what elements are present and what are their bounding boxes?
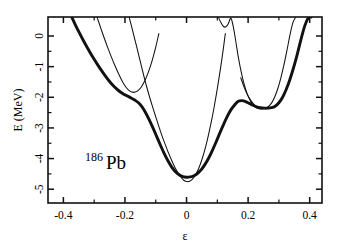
x-tick-label: 0 — [184, 209, 190, 221]
chart-background — [0, 0, 345, 247]
y-axis-title: E (MeV) — [11, 89, 25, 132]
energy-deformation-chart: -0.4-0.200.20.4 0-1-2-3-4-5 ε E (MeV) 18… — [0, 0, 345, 247]
y-tick-label: -4 — [33, 154, 45, 164]
y-tick-label: -2 — [33, 92, 45, 102]
y-tick-label: -1 — [33, 62, 45, 72]
x-tick-label: -0.4 — [54, 209, 72, 221]
x-axis-title: ε — [182, 229, 187, 243]
y-tick-label: -5 — [33, 184, 45, 194]
x-tick-label: 0.2 — [241, 209, 256, 221]
x-tick-label: 0.4 — [302, 209, 317, 221]
x-tick-label: -0.2 — [116, 209, 134, 221]
figure-root: -0.4-0.200.20.4 0-1-2-3-4-5 ε E (MeV) 18… — [0, 0, 345, 247]
y-tick-label: -3 — [33, 123, 45, 133]
y-tick-label: 0 — [33, 33, 45, 39]
nuclide-mass-number: 186 — [85, 150, 103, 164]
nuclide-symbol: Pb — [106, 152, 126, 173]
